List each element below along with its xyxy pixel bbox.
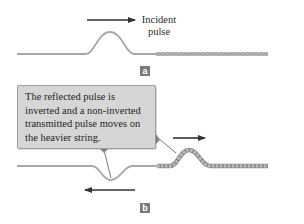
- explanation-callout: The reflected pulse is inverted and a no…: [17, 85, 156, 149]
- panel-a-tag: a: [140, 66, 150, 76]
- incident-pulse-label: Incident pulse: [136, 14, 182, 38]
- light-string-b: [17, 166, 157, 180]
- heavy-string-a: [156, 52, 268, 56]
- heavy-string-b: [157, 150, 268, 166]
- panel-b-tag: b: [140, 203, 150, 213]
- wave-reflection-diagram: Incident pulse a The reflected pulse is …: [0, 0, 304, 224]
- incident-label-line1: Incident: [136, 14, 182, 26]
- incident-label-line2: pulse: [136, 26, 182, 38]
- callout-text: The reflected pulse is inverted and a no…: [25, 90, 148, 144]
